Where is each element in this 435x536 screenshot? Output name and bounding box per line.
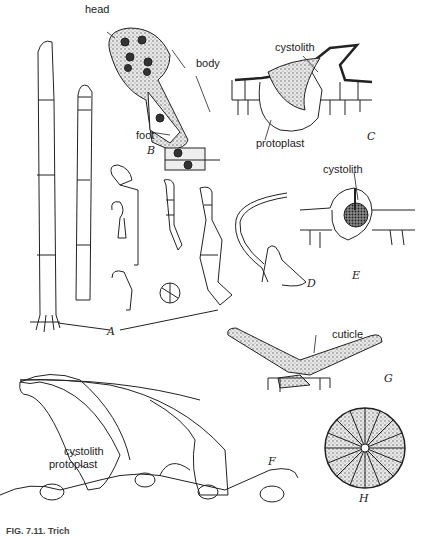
panel-label-g: G	[384, 373, 393, 384]
trichome-figure: head body foot B cystolith protoplast C …	[0, 0, 435, 536]
panel-label-e: E	[352, 270, 360, 281]
label-cystolith-e: cystolith	[323, 164, 363, 175]
panel-label-f: F	[268, 456, 276, 467]
leader-lines	[70, 32, 358, 468]
figure-caption: FIG. 7.11. Trich	[6, 526, 70, 536]
arrow-a-left	[58, 323, 110, 330]
panel-c-cystolith-cell	[232, 45, 372, 131]
panel-b-gland	[109, 28, 220, 170]
label-head: head	[85, 4, 109, 15]
label-foot: foot	[136, 130, 154, 141]
arrow-a-right	[120, 310, 218, 330]
panel-label-h: H	[359, 493, 369, 504]
label-body: body	[196, 58, 220, 69]
panel-label-b: B	[147, 145, 155, 156]
panel-label-d: D	[307, 278, 316, 289]
panel-f-cystolith-hairs	[0, 374, 298, 502]
label-protoplast-c: protoplast	[256, 138, 304, 149]
label-cuticle: cuticle	[332, 329, 363, 340]
panel-h-peltate-scale	[325, 408, 405, 488]
panel-d-hooked-hair	[236, 193, 306, 286]
label-cystolith-f: cystolith	[64, 446, 104, 457]
label-cystolith-c: cystolith	[275, 42, 315, 53]
label-protoplast-f: protoplast	[49, 459, 97, 470]
panel-label-c: C	[367, 131, 375, 142]
panel-label-a: A	[107, 326, 115, 337]
